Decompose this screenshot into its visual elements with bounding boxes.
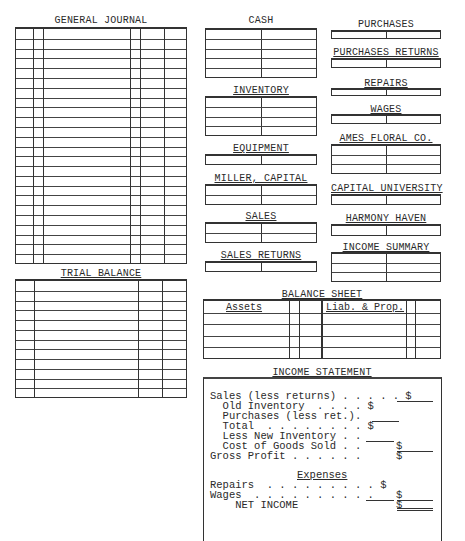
purchases-amount-blank[interactable]	[372, 421, 399, 422]
t-account-divider	[386, 146, 387, 173]
table-row-line	[16, 88, 186, 89]
wages-t-account	[331, 114, 441, 124]
table-row-line	[16, 320, 186, 321]
cogs-amount-blank[interactable]	[397, 451, 433, 452]
table-row-line	[16, 235, 186, 236]
miller-capital-account-title: MILLER, CAPITAL	[205, 173, 317, 184]
table-row-line	[16, 58, 186, 59]
sales-t-account	[205, 222, 317, 243]
table-row-line	[16, 205, 186, 206]
t-account-divider	[386, 254, 387, 281]
table-row-line	[16, 340, 186, 341]
trial-balance-title: TRIAL BALANCE	[15, 268, 187, 279]
table-row-line	[16, 176, 186, 177]
inventory-account-title: INVENTORY	[205, 85, 317, 96]
t-account-row-line	[332, 263, 440, 264]
t-account-row-line	[206, 68, 316, 69]
t-account-divider	[261, 263, 262, 271]
t-account-divider	[386, 196, 387, 204]
t-account-row-line	[206, 49, 316, 50]
t-account-row-line	[332, 155, 440, 156]
income-summary-t-account	[331, 252, 441, 282]
ames-floral-t-account	[331, 144, 441, 174]
general-journal-table	[15, 27, 187, 264]
total-expenses-amount-blank[interactable]	[397, 500, 433, 501]
sales-returns-account-title: SALES RETURNS	[205, 250, 317, 261]
trial-balance-table	[15, 279, 187, 398]
table-row-line	[16, 291, 186, 292]
table-row-line	[16, 369, 186, 370]
table-row-line	[16, 225, 186, 226]
new-inventory-amount-blank[interactable]	[366, 441, 394, 442]
cash-account-title: CASH	[205, 15, 317, 26]
column-divider	[164, 29, 165, 263]
table-row-line	[16, 166, 186, 167]
sales-amount-blank[interactable]	[397, 401, 433, 402]
table-row-line	[16, 379, 186, 380]
purchases-t-account	[331, 30, 441, 39]
table-row-line	[16, 147, 186, 148]
t-account-row-line	[332, 164, 440, 165]
column-divider	[138, 281, 139, 397]
inventory-t-account	[205, 96, 317, 136]
table-row-line	[16, 244, 186, 245]
t-account-row-line	[206, 233, 316, 234]
column-divider	[299, 301, 300, 358]
t-account-row-line	[206, 117, 316, 118]
equipment-account-title: EQUIPMENT	[205, 143, 317, 154]
t-account-row-line	[206, 126, 316, 127]
table-row-line	[16, 388, 186, 389]
sales-returns-t-account	[205, 261, 317, 272]
gross-profit-line: Gross Profit . . . . . .	[210, 451, 361, 462]
column-divider	[43, 29, 44, 263]
assets-heading: Assets	[226, 302, 262, 313]
balance-sheet-table: Assets Liab. & Prop.	[203, 299, 441, 359]
table-row-line	[16, 156, 186, 157]
table-row-line	[16, 78, 186, 79]
t-account-divider	[261, 30, 262, 77]
harmony-haven-t-account	[331, 224, 441, 236]
capital-university-account-title: CAPITAL UNIVERSITY	[331, 183, 441, 194]
general-journal-title: GENERAL JOURNAL	[15, 15, 187, 26]
purchases-returns-account-title: PURCHASES RETURNS	[331, 47, 441, 58]
table-row-line	[16, 195, 186, 196]
table-row-line	[16, 39, 186, 40]
gross-profit-dollar-sign: $	[396, 451, 402, 462]
table-row-line	[16, 310, 186, 311]
table-row-line	[16, 127, 186, 128]
wages-amount-blank[interactable]	[366, 500, 394, 501]
column-divider	[34, 281, 35, 397]
purchases-account-title: PURCHASES	[331, 19, 441, 30]
t-account-divider	[386, 32, 387, 38]
table-row-line	[16, 254, 186, 255]
t-account-row-line	[206, 107, 316, 108]
capital-university-t-account	[331, 194, 441, 205]
t-account-divider	[386, 90, 387, 95]
column-divider	[130, 29, 131, 263]
table-row-line	[16, 49, 186, 50]
column-divider	[162, 281, 163, 397]
cash-t-account	[205, 28, 317, 78]
t-account-row-line	[206, 195, 316, 196]
repairs-t-account	[331, 88, 441, 96]
ames-floral-account-title: AMES FLORAL CO.	[331, 133, 441, 144]
table-row-line	[16, 107, 186, 108]
column-divider	[289, 301, 290, 358]
table-row-line	[16, 215, 186, 216]
miller-capital-t-account	[205, 184, 317, 205]
sales-account-title: SALES	[205, 211, 317, 222]
income-statement-box: Sales (less returns) . . . . . $ Old Inv…	[203, 377, 442, 541]
net-income-line: NET INCOME	[210, 500, 298, 511]
column-divider	[33, 29, 34, 263]
table-row-line	[16, 359, 186, 360]
net-income-amount-blank[interactable]	[397, 508, 433, 511]
table-row-line	[16, 186, 186, 187]
harmony-haven-account-title: HARMONY HAVEN	[331, 213, 441, 224]
table-row-line	[16, 349, 186, 350]
t-account-divider	[386, 226, 387, 235]
column-divider	[321, 301, 323, 358]
purchases-returns-t-account	[331, 58, 441, 68]
column-divider	[140, 29, 141, 263]
table-row-line	[16, 68, 186, 69]
t-account-row-line	[206, 58, 316, 59]
